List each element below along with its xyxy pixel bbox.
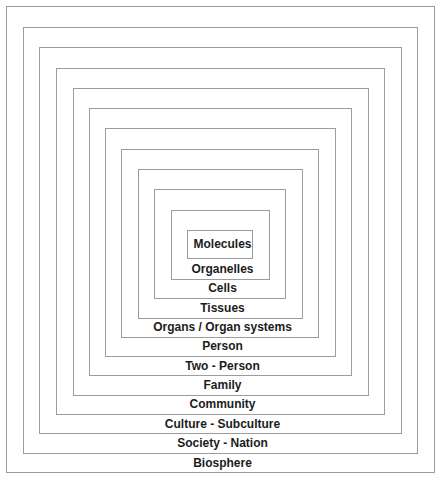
label-culture-subculture: Culture - Subculture: [0, 417, 445, 431]
label-cells: Cells: [0, 281, 445, 295]
label-biosphere: Biosphere: [0, 456, 445, 470]
label-family: Family: [0, 378, 445, 392]
nested-levels-diagram: Molecules Organelles Cells Tissues Organ…: [0, 0, 445, 482]
label-organelles: Organelles: [0, 262, 445, 276]
label-person: Person: [0, 339, 445, 353]
label-tissues: Tissues: [0, 301, 445, 315]
label-molecules: Molecules: [0, 237, 445, 251]
label-organs: Organs / Organ systems: [0, 320, 445, 334]
label-society-nation: Society - Nation: [0, 436, 445, 450]
label-two-person: Two - Person: [0, 359, 445, 373]
label-community: Community: [0, 397, 445, 411]
